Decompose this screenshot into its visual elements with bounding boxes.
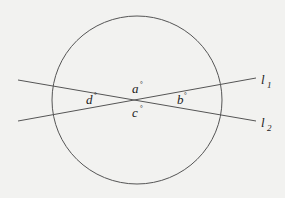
svg-text:°: °: [94, 91, 97, 99]
svg-text:°: °: [140, 104, 143, 112]
angle-d-label: d °: [86, 91, 97, 107]
svg-text:l: l: [261, 72, 265, 87]
circle-lines-diagram: a ° b ° c ° d ° l 1 l 2: [0, 0, 285, 198]
svg-text:c: c: [132, 105, 138, 120]
angle-b-label: b °: [177, 91, 187, 107]
svg-text:l: l: [261, 115, 265, 130]
line-l2-label: l 2: [261, 115, 272, 133]
svg-text:a: a: [132, 81, 139, 96]
angle-a-label: a °: [132, 80, 143, 96]
svg-text:d: d: [86, 92, 93, 107]
angle-c-label: c °: [132, 104, 143, 120]
svg-text:2: 2: [267, 123, 272, 133]
svg-text:1: 1: [267, 80, 272, 90]
svg-text:°: °: [140, 80, 143, 88]
line-l1-label: l 1: [261, 72, 272, 90]
svg-text:b: b: [177, 92, 184, 107]
svg-text:°: °: [184, 91, 187, 99]
